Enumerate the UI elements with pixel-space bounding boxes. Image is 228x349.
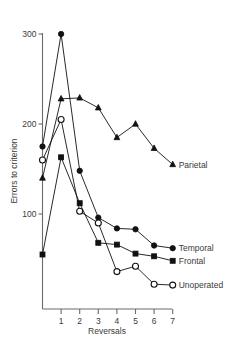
series-marker-unoperated-2 xyxy=(77,208,83,214)
series-marker-parietal-0 xyxy=(40,175,46,181)
series-marker-temporal-4 xyxy=(114,226,119,231)
x-tick-label-3: 3 xyxy=(96,316,101,326)
series-marker-parietal-5 xyxy=(133,121,139,127)
x-axis-ticks xyxy=(61,309,173,314)
series-marker-unoperated-7 xyxy=(170,282,176,288)
series-marker-temporal-6 xyxy=(151,243,156,248)
chart-series-labels: ParietalTemporalFrontalUnoperated xyxy=(179,160,224,291)
series-marker-temporal-1 xyxy=(58,31,63,36)
series-marker-unoperated-6 xyxy=(151,281,157,287)
series-marker-frontal-7 xyxy=(170,258,175,263)
series-marker-parietal-2 xyxy=(77,95,83,101)
y-tick-label-300: 300 xyxy=(22,29,36,39)
chart-plot-area: 100200300 1234567 ParietalTemporalFronta… xyxy=(0,0,228,349)
series-marker-unoperated-3 xyxy=(95,220,101,226)
y-axis-title: Errors to criterion xyxy=(9,138,19,203)
y-tick-label-200: 200 xyxy=(22,119,36,129)
series-marker-temporal-7 xyxy=(170,246,175,251)
series-marker-frontal-5 xyxy=(133,251,138,256)
series-marker-unoperated-4 xyxy=(114,269,120,275)
series-label-frontal: Frontal xyxy=(179,256,206,266)
x-tick-label-7: 7 xyxy=(170,316,175,326)
series-line-unoperated xyxy=(43,120,173,286)
y-axis-ticks xyxy=(39,34,43,214)
series-marker-frontal-2 xyxy=(77,201,82,206)
x-tick-label-5: 5 xyxy=(133,316,138,326)
series-line-parietal xyxy=(43,98,173,178)
series-marker-frontal-6 xyxy=(152,254,157,259)
series-marker-parietal-7 xyxy=(170,161,176,167)
errors-to-criterion-chart: 100200300 1234567 ParietalTemporalFronta… xyxy=(0,0,228,349)
x-tick-label-4: 4 xyxy=(115,316,120,326)
chart-series-markers xyxy=(40,31,176,288)
x-tick-label-1: 1 xyxy=(59,316,64,326)
series-label-parietal: Parietal xyxy=(179,160,208,170)
x-axis-title: Reversals xyxy=(88,326,126,336)
series-marker-frontal-4 xyxy=(114,242,119,247)
series-line-temporal xyxy=(43,34,173,248)
series-marker-unoperated-1 xyxy=(58,117,64,123)
x-tick-label-2: 2 xyxy=(77,316,82,326)
x-tick-label-6: 6 xyxy=(152,316,157,326)
series-marker-frontal-0 xyxy=(40,252,45,257)
y-tick-label-100: 100 xyxy=(22,209,36,219)
series-marker-unoperated-0 xyxy=(40,157,46,163)
x-axis-tick-labels: 1234567 xyxy=(59,316,176,326)
series-marker-temporal-2 xyxy=(77,168,82,173)
series-marker-frontal-1 xyxy=(59,155,64,160)
series-label-unoperated: Unoperated xyxy=(179,280,224,290)
series-marker-temporal-0 xyxy=(40,144,45,149)
y-axis-tick-labels: 100200300 xyxy=(22,29,36,219)
series-marker-frontal-3 xyxy=(96,240,101,245)
series-marker-unoperated-5 xyxy=(133,263,139,269)
series-label-temporal: Temporal xyxy=(179,243,214,253)
series-marker-temporal-5 xyxy=(133,227,138,232)
series-marker-parietal-1 xyxy=(58,95,64,101)
chart-axes xyxy=(39,33,173,314)
